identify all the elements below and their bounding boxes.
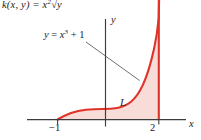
curve-label-constant: 1 bbox=[79, 29, 84, 40]
x-axis-label: x bbox=[189, 118, 194, 129]
curve-label-leader-line bbox=[86, 42, 140, 81]
calculus-region-figure: k(x, y) = x2√y y = x3 + 1 L y x −1 2 bbox=[0, 0, 201, 140]
y-axis-label: y bbox=[111, 14, 116, 25]
curve-equation-label: y = x3 + 1 bbox=[44, 29, 84, 40]
plot-canvas bbox=[0, 0, 201, 140]
shaded-region-fill bbox=[58, 0, 159, 120]
x-tick-label-neg1: −1 bbox=[49, 122, 60, 133]
region-label: L bbox=[120, 96, 126, 108]
x-tick-label-2: 2 bbox=[150, 122, 155, 133]
